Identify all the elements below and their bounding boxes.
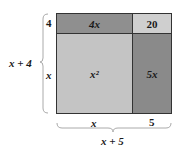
cell-bottom-left-label: x² bbox=[90, 68, 99, 80]
cell-top-right-label: 20 bbox=[147, 18, 158, 30]
brace-label-left: x + 4 bbox=[9, 58, 32, 69]
side-label-bottom-left: x bbox=[91, 118, 97, 129]
cell-bottom-left: x² bbox=[57, 34, 133, 113]
side-label-left-bottom: x bbox=[46, 70, 52, 81]
cell-bottom-right: 5x bbox=[133, 34, 171, 113]
cell-top-right: 20 bbox=[133, 14, 171, 34]
cell-top-left: 4x bbox=[57, 14, 133, 34]
side-label-bottom-right: 5 bbox=[149, 117, 155, 128]
cell-top-left-label: 4x bbox=[89, 18, 100, 30]
area-model-grid: 4x 20 x² 5x bbox=[56, 13, 172, 114]
side-label-left-top: 4 bbox=[46, 18, 52, 29]
brace-label-bottom: x + 5 bbox=[101, 136, 124, 147]
cell-bottom-right-label: 5x bbox=[147, 68, 158, 80]
